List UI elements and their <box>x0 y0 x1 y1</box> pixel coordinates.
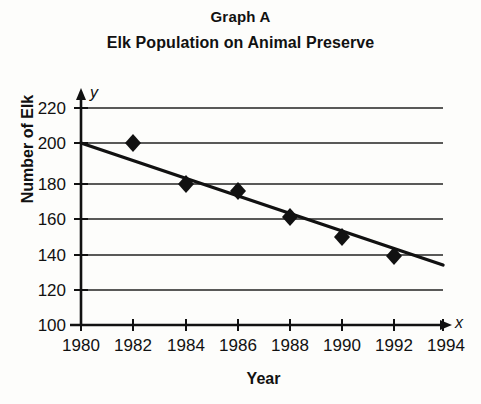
chart-plot-area <box>0 0 481 404</box>
gridlines <box>81 108 443 290</box>
chart-figure: Graph A Elk Population on Animal Preserv… <box>0 0 481 404</box>
x-axis-arrow <box>440 320 452 330</box>
data-point-marker <box>125 134 141 152</box>
trend-line <box>81 143 443 265</box>
data-points <box>125 134 402 265</box>
y-axis-arrow <box>76 88 86 100</box>
